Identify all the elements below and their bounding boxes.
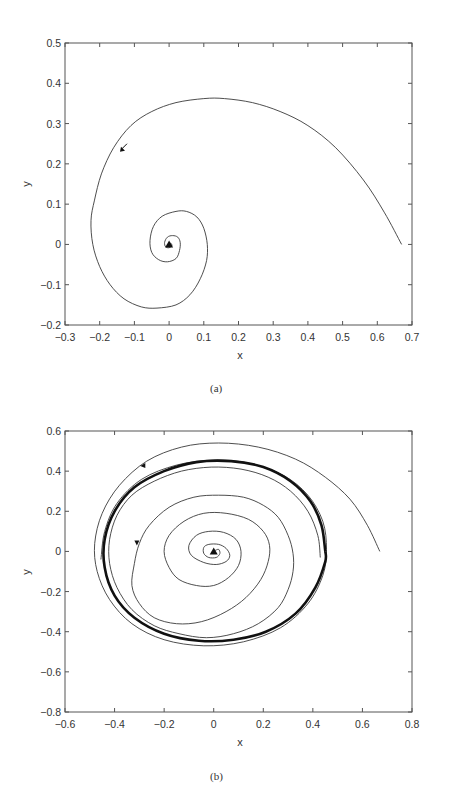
y-tick-label: 0.2 bbox=[46, 505, 61, 517]
markers-a bbox=[120, 144, 173, 248]
x-tick-label: 0.4 bbox=[306, 718, 321, 730]
plot-frame-a bbox=[65, 43, 412, 325]
y-tick-label: 0.4 bbox=[46, 77, 61, 89]
y-tick-label: −0.2 bbox=[40, 586, 61, 598]
caption-a: (a) bbox=[210, 382, 222, 394]
x-tick-label: 0.4 bbox=[301, 331, 316, 343]
y-tick-label: 0 bbox=[55, 545, 61, 557]
y-tick-label: 0.5 bbox=[46, 37, 61, 49]
x-tick-label: −0.3 bbox=[55, 331, 76, 343]
x-axis-label-a: x bbox=[237, 349, 243, 361]
trajectory-line bbox=[91, 98, 402, 308]
chart-panel-a: −0.3−0.2−0.100.10.20.30.40.50.60.7−0.2−0… bbox=[20, 37, 419, 361]
x-tick-label: −0.1 bbox=[124, 331, 145, 343]
x-tick-label: −0.6 bbox=[55, 718, 76, 730]
caption-b: (b) bbox=[210, 770, 223, 782]
figure-canvas: −0.3−0.2−0.100.10.20.30.40.50.60.7−0.2−0… bbox=[0, 0, 449, 791]
y-tick-label: −0.6 bbox=[40, 666, 61, 678]
fixed-point-triangle-icon bbox=[210, 547, 218, 554]
y-tick-label: 0.1 bbox=[46, 198, 61, 210]
x-tick-label: 0.2 bbox=[231, 331, 246, 343]
chart-panel-b: −0.6−0.4−0.200.20.40.60.8−0.8−0.6−0.4−0.… bbox=[20, 425, 419, 748]
x-tick-label: −0.4 bbox=[104, 718, 125, 730]
direction-arrow-icon bbox=[120, 147, 125, 152]
x-tick-label: 0.6 bbox=[370, 331, 385, 343]
y-tick-label: −0.4 bbox=[40, 626, 61, 638]
x-tick-label: 0.7 bbox=[405, 331, 420, 343]
x-tick-label: 0.6 bbox=[355, 718, 370, 730]
x-axis-label-b: x bbox=[237, 736, 243, 748]
y-tick-label: 0.6 bbox=[46, 425, 61, 437]
y-tick-label: 0.4 bbox=[46, 465, 61, 477]
y-tick-label: 0.3 bbox=[46, 118, 61, 130]
x-tick-label: 0.1 bbox=[196, 331, 211, 343]
x-tick-label: −0.2 bbox=[89, 331, 110, 343]
y-tick-label: 0.2 bbox=[46, 158, 61, 170]
x-tick-label: −0.2 bbox=[154, 718, 175, 730]
y-tick-label: −0.8 bbox=[40, 706, 61, 718]
x-tick-label: 0.3 bbox=[266, 331, 281, 343]
x-tick-label: 0 bbox=[166, 331, 172, 343]
y-tick-label: −0.1 bbox=[40, 279, 61, 291]
y-tick-label: 0 bbox=[55, 238, 61, 250]
data-series-a bbox=[91, 98, 402, 308]
direction-arrow-shaft bbox=[122, 144, 127, 149]
plot-frame-b bbox=[65, 431, 412, 712]
x-tick-label: 0.5 bbox=[335, 331, 350, 343]
y-axis-label-b: y bbox=[20, 569, 32, 575]
y-tick-label: −0.2 bbox=[40, 319, 61, 331]
axis-ticks-b: −0.6−0.4−0.200.20.40.60.8−0.8−0.6−0.4−0.… bbox=[40, 425, 419, 730]
markers-b bbox=[134, 463, 217, 554]
y-axis-label-a: y bbox=[20, 181, 32, 187]
x-tick-label: 0.2 bbox=[256, 718, 271, 730]
x-tick-label: 0 bbox=[211, 718, 217, 730]
x-tick-label: 0.8 bbox=[405, 718, 420, 730]
